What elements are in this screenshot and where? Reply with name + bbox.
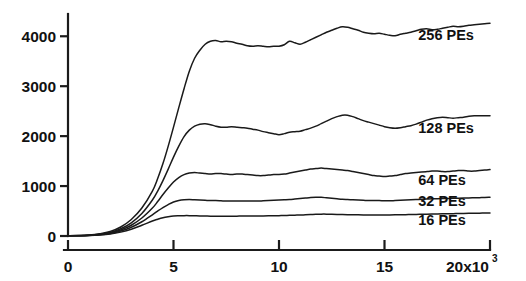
series-inline-labels: 256 PEs128 PEs64 PEs32 PEs16 PEs (418, 27, 474, 229)
y-tick-label: 2000 (22, 128, 56, 145)
x-tick-label: 20x10 (446, 258, 489, 275)
y-tick-label: 3000 (22, 78, 56, 95)
series-label-128-pes: 128 PEs (418, 120, 474, 136)
x-axis-exponent-label: 3 (492, 253, 498, 264)
y-tick-label: 4000 (22, 28, 56, 45)
x-tick-label: 15 (376, 258, 394, 275)
x-axis-tick-labels: 05101520x103 (64, 253, 498, 275)
series-label-16-pes: 16 PEs (418, 212, 466, 228)
series-label-256-pes: 256 PEs (418, 27, 474, 43)
x-tick-label: 0 (64, 258, 73, 275)
y-axis-tick-labels: 01000200030004000 (22, 28, 56, 245)
series-label-32-pes: 32 PEs (418, 193, 466, 209)
series-label-64-pes: 64 PEs (418, 172, 466, 188)
x-axis-ticks (68, 240, 490, 250)
y-tick-label: 0 (47, 228, 56, 245)
line-chart-plot: 01000200030004000 05101520x103 256 PEs12… (0, 0, 526, 281)
y-axis-ticks (60, 36, 68, 236)
x-tick-label: 5 (169, 258, 178, 275)
x-tick-label: 10 (270, 258, 287, 275)
y-tick-label: 1000 (22, 178, 56, 195)
chart-figure: 01000200030004000 05101520x103 256 PEs12… (0, 0, 526, 281)
